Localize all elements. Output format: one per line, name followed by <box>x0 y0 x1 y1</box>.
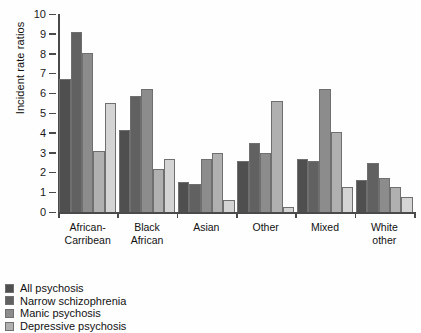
y-axis-tick-mark <box>49 93 56 95</box>
y-axis-tick-label: 4 <box>40 127 46 139</box>
bar <box>119 130 130 212</box>
y-axis-tick-mark <box>49 192 56 194</box>
y-axis-tick: 10 <box>0 8 58 20</box>
bar <box>82 53 93 212</box>
bar <box>189 184 200 212</box>
y-axis-tick: 5 <box>0 107 58 119</box>
y-axis-tick-label: 8 <box>40 48 46 60</box>
y-axis-tick: 6 <box>0 87 58 99</box>
y-axis-tick: 2 <box>0 166 58 178</box>
bar <box>178 182 189 212</box>
y-axis-tick: 1 <box>0 186 58 198</box>
legend-item-label: Manic psychosis <box>20 307 101 320</box>
y-axis-tick: 8 <box>0 48 58 60</box>
bar <box>249 143 260 212</box>
y-axis-tick-mark <box>49 33 56 35</box>
legend-item: Depressive psychosis <box>5 320 305 333</box>
bar <box>379 178 390 212</box>
bar <box>283 207 294 212</box>
y-axis-tick: 0 <box>0 206 58 218</box>
bar <box>59 79 70 212</box>
x-axis-tick-mark <box>236 212 238 218</box>
bar <box>223 200 234 212</box>
bar <box>164 159 175 212</box>
bar <box>319 89 330 212</box>
y-axis-tick-mark <box>49 132 56 134</box>
bar <box>271 101 282 212</box>
chart-figure: Incident rate ratios 012345678910 Africa… <box>0 0 421 333</box>
legend-item-label: All psychosis <box>20 282 84 295</box>
x-axis-group-label: White other <box>355 221 414 246</box>
legend-swatch-icon <box>5 309 14 318</box>
y-axis-tick-label: 10 <box>34 8 46 20</box>
legend-swatch-icon <box>5 296 14 305</box>
plot-area <box>58 14 414 212</box>
y-axis-tick: 3 <box>0 147 58 159</box>
bar <box>401 197 412 212</box>
bar <box>105 103 116 212</box>
bar <box>212 153 223 212</box>
y-axis-tick-label: 9 <box>40 28 46 40</box>
y-axis-tick-label: 6 <box>40 87 46 99</box>
y-axis-tick-label: 1 <box>40 186 46 198</box>
x-axis-tick-mark <box>177 212 179 218</box>
bar <box>71 32 82 212</box>
x-axis-tick-mark <box>58 212 60 218</box>
y-axis-tick: 9 <box>0 28 58 40</box>
bar <box>201 159 212 212</box>
y-axis-tick-label: 2 <box>40 166 46 178</box>
y-axis-tick-mark <box>49 73 56 75</box>
legend-item-label: Depressive psychosis <box>20 320 126 333</box>
y-axis-tick-label: 3 <box>40 147 46 159</box>
x-axis-tick-mark <box>414 212 416 218</box>
x-axis-tick-mark <box>117 212 119 218</box>
y-axis-tick-label: 7 <box>40 67 46 79</box>
legend-item-label: Narrow schizophrenia <box>20 295 126 308</box>
legend-item: Narrow schizophrenia <box>5 295 305 308</box>
bar <box>130 96 141 212</box>
bar <box>331 132 342 212</box>
bar <box>153 169 164 212</box>
y-axis-tick-mark <box>49 152 56 154</box>
chart-legend: All psychosisNarrow schizophreniaManic p… <box>5 282 305 332</box>
y-axis-tick-mark <box>49 113 56 115</box>
y-axis-tick-label: 5 <box>40 107 46 119</box>
y-axis-tick-mark <box>49 172 56 174</box>
y-axis-tick-mark <box>49 53 56 55</box>
x-axis-group-label: African- Carribean <box>58 221 117 246</box>
x-axis-tick-mark <box>295 212 297 218</box>
bar <box>141 89 152 212</box>
legend-item: All psychosis <box>5 282 305 295</box>
y-axis-tick-mark <box>49 14 56 16</box>
y-axis-tick: 7 <box>0 67 58 79</box>
legend-item: Manic psychosis <box>5 307 305 320</box>
bar <box>297 159 308 212</box>
legend-swatch-icon <box>5 322 14 331</box>
bar <box>342 187 353 212</box>
x-axis-group-label: Asian <box>177 221 236 234</box>
bar <box>367 163 378 213</box>
x-axis-group-label: Mixed <box>295 221 354 234</box>
bar <box>260 153 271 212</box>
y-axis-tick-label: 0 <box>40 206 46 218</box>
x-axis-group-label: Black African <box>117 221 176 246</box>
legend-swatch-icon <box>5 284 14 293</box>
bar <box>356 180 367 212</box>
x-axis-group-label: Other <box>236 221 295 234</box>
y-axis-tick: 4 <box>0 127 58 139</box>
bar <box>390 187 401 212</box>
bar <box>237 161 248 212</box>
bar <box>308 161 319 212</box>
x-axis-tick-mark <box>355 212 357 218</box>
bar <box>93 151 104 212</box>
y-axis-tick-mark <box>49 212 56 214</box>
